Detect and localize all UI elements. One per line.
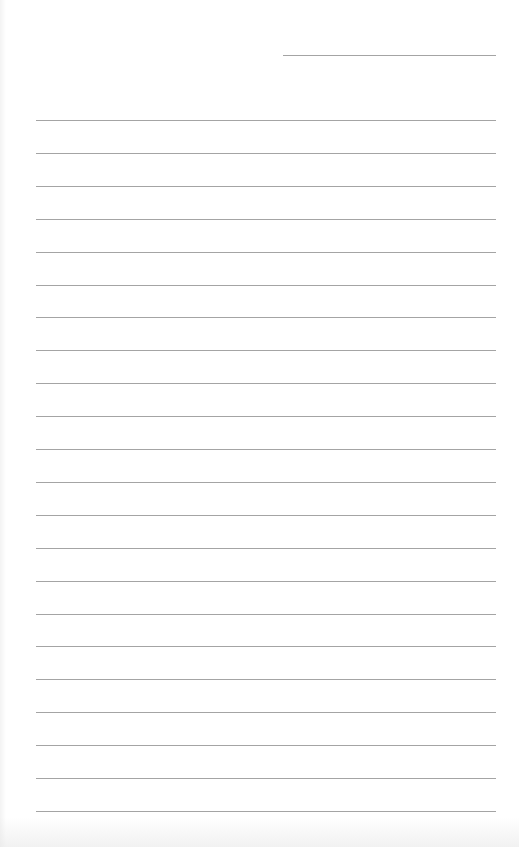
ruled-line — [36, 811, 496, 812]
ruled-line — [36, 581, 496, 582]
ruled-line — [36, 285, 496, 286]
ruled-line — [36, 153, 496, 154]
ruled-line — [36, 482, 496, 483]
ruled-line — [36, 120, 496, 121]
ruled-line — [36, 219, 496, 220]
ruled-line — [36, 186, 496, 187]
ruled-line — [36, 614, 496, 615]
ruled-line — [36, 646, 496, 647]
bottom-bleed-through — [0, 817, 519, 847]
lined-page — [0, 0, 519, 847]
header-name-line — [283, 55, 496, 56]
ruled-line — [36, 449, 496, 450]
ruled-line — [36, 712, 496, 713]
ruled-line — [36, 317, 496, 318]
ruled-line — [36, 252, 496, 253]
ruled-line — [36, 778, 496, 779]
ruled-line — [36, 515, 496, 516]
ruled-line — [36, 383, 496, 384]
ruled-line — [36, 350, 496, 351]
page-edge-shadow — [0, 0, 6, 847]
ruled-line — [36, 679, 496, 680]
ruled-line — [36, 745, 496, 746]
ruled-line — [36, 548, 496, 549]
ruled-line — [36, 416, 496, 417]
